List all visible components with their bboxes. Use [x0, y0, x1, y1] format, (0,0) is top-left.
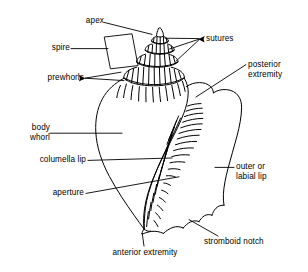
label-posterior-extremity-line1: posterior: [248, 60, 306, 70]
label-body-whorl-line1: body: [4, 123, 50, 133]
shell-anatomy-diagram: apex spire prewhorls body whorl columell…: [0, 0, 308, 272]
leader-anterior-extremity: [142, 235, 144, 246]
label-prewhorls: prewhorls: [16, 73, 84, 83]
spire-bracket: [105, 34, 138, 69]
leader-columella-lip: [88, 158, 172, 160]
label-body-whorl-line2: whorl: [4, 133, 50, 143]
leader-stromboid-notch: [189, 220, 218, 236]
label-anterior-extremity: anterior extremity: [92, 248, 198, 258]
leader-aperture: [86, 177, 179, 194]
label-outer-lip-line2: labial lip: [236, 172, 298, 182]
leader-prewhorls-1: [85, 72, 121, 78]
leader-prewhorls-2: [85, 78, 124, 80]
leader-posterior-extremity: [196, 65, 246, 97]
label-stromboid-notch: stromboid notch: [204, 237, 300, 247]
label-posterior-extremity-line2: extremity: [248, 70, 306, 80]
label-apex: apex: [54, 16, 104, 26]
leader-apex: [104, 22, 152, 34]
label-columella-lip: columella lip: [6, 155, 86, 165]
body-whorl-shape: [96, 78, 189, 229]
label-aperture: aperture: [30, 188, 84, 198]
leader-arrowheads: [79, 36, 205, 82]
label-outer-lip-line1: outer or: [236, 162, 298, 172]
label-spire: spire: [24, 43, 70, 53]
label-sutures: sutures: [206, 34, 260, 44]
